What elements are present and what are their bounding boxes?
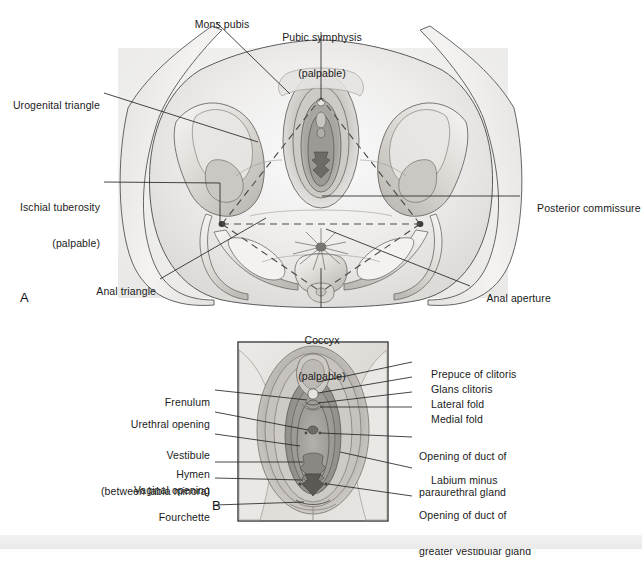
- label-ischial-tuberosity-text: Ischial tuberosity: [0, 201, 100, 213]
- label-opening-greater-vestibular: Opening of duct of greater vestibular gl…: [419, 484, 635, 561]
- panel-b-label: B: [212, 498, 221, 513]
- label-pubic-symphysis-sub: (palpable): [258, 67, 386, 79]
- label-opening-paraurethral-text: Opening of duct of: [419, 450, 633, 462]
- panel-a-label: A: [20, 290, 29, 305]
- label-anal-aperture-text: Anal aperture: [487, 292, 551, 304]
- label-urogenital-triangle: Urogenital triangle: [0, 87, 100, 124]
- label-coccyx: Coccyx (palpable): [258, 309, 386, 407]
- label-fourchette-text: Fourchette: [159, 511, 210, 523]
- label-ischial-tuberosity-sub: (palpable): [0, 237, 100, 249]
- label-ischial-tuberosity: Ischial tuberosity (palpable): [0, 176, 100, 274]
- label-posterior-commissure: Posterior commissure: [525, 190, 642, 227]
- label-pubic-symphysis-text: Pubic symphysis: [258, 31, 386, 43]
- label-posterior-commissure-text: Posterior commissure: [537, 202, 641, 214]
- paraurethral-duct-right: [319, 432, 322, 435]
- urethral-opening-shape: [308, 426, 318, 434]
- greater-vestibular-duct-right: [325, 483, 328, 486]
- label-mons-pubis-text: Mons pubis: [195, 18, 250, 30]
- label-urogenital-triangle-text: Urogenital triangle: [13, 99, 100, 111]
- label-vaginal-opening-text: Vaginal opening: [134, 484, 210, 496]
- label-anal-aperture: Anal aperture: [475, 280, 595, 317]
- greater-vestibular-duct-left: [299, 483, 302, 486]
- label-anal-triangle-text: Anal triangle: [96, 285, 156, 297]
- footer-band: [0, 535, 642, 549]
- label-fourchette: Fourchette: [40, 499, 210, 536]
- label-coccyx-sub: (palpable): [258, 370, 386, 382]
- label-coccyx-text: Coccyx: [258, 334, 386, 346]
- paraurethral-duct-left: [305, 432, 308, 435]
- label-pubic-symphysis: Pubic symphysis (palpable): [258, 6, 386, 104]
- label-opening-greater-vestibular-text: Opening of duct of: [419, 509, 635, 521]
- label-medial-fold-text: Medial fold: [431, 413, 483, 425]
